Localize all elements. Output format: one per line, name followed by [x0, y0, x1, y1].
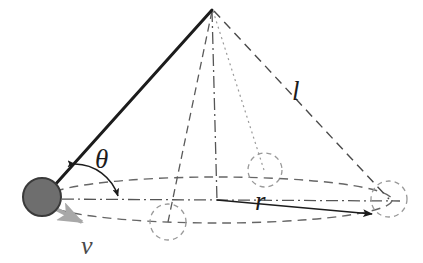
vertical-axis-line — [212, 10, 217, 201]
conical-pendulum-figure: θ l r v — [0, 0, 423, 263]
velocity-label-v: v — [81, 233, 93, 259]
velocity-arrow — [54, 208, 82, 222]
apex-to-ghost-bob-front-line — [168, 11, 212, 222]
pendulum-string — [45, 10, 212, 196]
radius-arrow — [217, 200, 372, 214]
length-label-l: l — [292, 78, 300, 105]
angle-label-theta: θ — [95, 146, 108, 173]
pendulum-bob — [23, 178, 61, 216]
ghost-bob-back — [248, 153, 282, 187]
radius-label-r: r — [255, 188, 266, 215]
diagram-canvas — [0, 0, 423, 263]
apex-to-ghost-bob-right-line — [214, 11, 389, 199]
apex-to-ghost-bob-back-line — [213, 11, 264, 170]
